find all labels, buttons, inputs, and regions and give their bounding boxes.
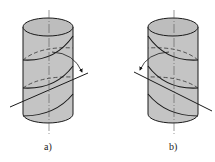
cylinder-top: [23, 18, 73, 36]
panel-b: b): [134, 10, 212, 153]
panel-label-a: a): [44, 141, 52, 153]
panel-a: a): [10, 10, 88, 153]
helix-diagram: a) b): [0, 0, 215, 162]
panel-label-b: b): [169, 141, 177, 153]
cylinder-top: [148, 18, 198, 36]
